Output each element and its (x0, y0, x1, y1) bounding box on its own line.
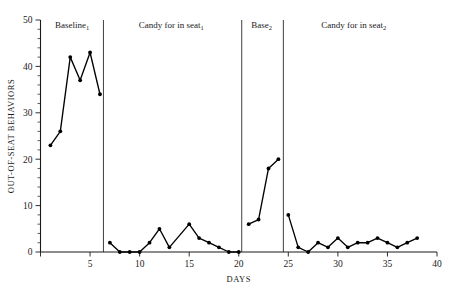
data-point (247, 222, 251, 226)
data-point (316, 241, 320, 245)
data-point (395, 245, 399, 249)
y-tick-label: 30 (23, 108, 33, 118)
data-point (326, 245, 330, 249)
phase-label-subscript: 2 (269, 24, 272, 31)
data-point (197, 236, 201, 240)
y-axis: 01020304050 (23, 15, 41, 257)
data-point (217, 245, 221, 249)
data-point (148, 241, 152, 245)
y-tick-label: 0 (28, 247, 33, 257)
data-point (227, 250, 231, 254)
y-tick-label: 20 (23, 155, 33, 165)
data-point (167, 245, 171, 249)
data-point (306, 250, 310, 254)
phase-separators (103, 20, 283, 252)
data-point (366, 241, 370, 245)
out-of-seat-behaviors-line-chart: 01020304050 510152025303540 Baseline1Can… (0, 0, 450, 289)
data-point (207, 241, 211, 245)
phase-labels: Baseline1Candy for in seat1Base2Candy fo… (55, 20, 386, 32)
data-point (118, 250, 122, 254)
x-tick-label: 35 (383, 259, 393, 269)
data-point (158, 227, 162, 231)
data-point (108, 241, 112, 245)
phase-label-candy-in-seat-1: Candy for in seat1 (139, 20, 204, 32)
phase-label-text: Base (251, 20, 269, 30)
phase-label-base-2: Base2 (251, 20, 272, 32)
y-tick-label: 40 (23, 62, 33, 72)
x-axis: 510152025303540 (41, 252, 443, 269)
x-tick-label: 15 (184, 259, 194, 269)
phase-label-subscript: 1 (201, 24, 204, 31)
y-axis-title: OUT-OF-SEAT BEHAVIORS (6, 79, 16, 194)
data-series (49, 51, 420, 254)
data-point (415, 236, 419, 240)
data-point (296, 245, 300, 249)
series-line-0-seg-2 (249, 159, 279, 224)
data-point (138, 250, 142, 254)
data-point (346, 245, 350, 249)
phase-label-baseline-1: Baseline1 (55, 20, 89, 32)
data-point (336, 236, 340, 240)
data-point (257, 218, 261, 222)
series-line-0-seg-0 (50, 52, 100, 145)
data-point (98, 92, 102, 96)
x-tick-label: 20 (234, 259, 244, 269)
phase-label-subscript: 1 (86, 24, 89, 31)
data-point (267, 167, 271, 171)
data-point (49, 143, 53, 147)
data-point (187, 222, 191, 226)
data-point (405, 241, 409, 245)
phase-label-text: Candy for in seat (139, 20, 201, 30)
data-point (68, 55, 72, 59)
data-point (88, 51, 92, 55)
chart-container: 01020304050 510152025303540 Baseline1Can… (0, 0, 450, 289)
data-point (286, 213, 290, 217)
data-point (356, 241, 360, 245)
data-point (237, 250, 241, 254)
data-point (78, 78, 82, 82)
phase-label-text: Baseline (55, 20, 86, 30)
x-tick-label: 5 (88, 259, 93, 269)
phase-label-subscript: 2 (383, 24, 386, 31)
data-point (277, 157, 281, 161)
data-point (386, 241, 390, 245)
x-tick-label: 25 (284, 259, 294, 269)
phase-label-candy-in-seat-2: Candy for in seat2 (321, 20, 386, 32)
data-point (128, 250, 132, 254)
x-tick-label: 10 (135, 259, 145, 269)
x-tick-label: 30 (333, 259, 343, 269)
phase-label-text: Candy for in seat (321, 20, 383, 30)
x-axis-title: DAYS (226, 274, 251, 284)
data-point (58, 129, 62, 133)
y-tick-label: 50 (23, 15, 33, 25)
y-tick-label: 10 (23, 201, 33, 211)
x-tick-label: 40 (432, 259, 442, 269)
data-point (376, 236, 380, 240)
